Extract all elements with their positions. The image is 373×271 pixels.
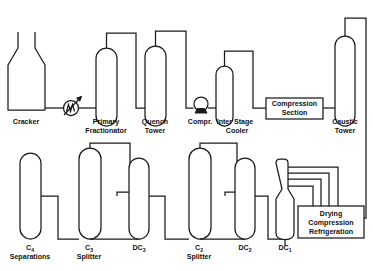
dc3-subscript-text: 3 <box>143 247 146 253</box>
drying-label-line2: Compression <box>308 219 353 227</box>
c4-separations-shape <box>20 153 41 239</box>
dc3-shape <box>129 158 149 239</box>
quench-tower-label-line2: Tower <box>145 127 166 135</box>
c2-splitter-shape <box>189 148 211 239</box>
compression-section-label-line1: Compression <box>272 100 317 108</box>
c4-separations-label-word: Separations <box>10 253 51 261</box>
drying-label-line3: Refrigeration <box>309 228 353 236</box>
primary-fractionator-label-line2: Fractionator <box>85 127 127 135</box>
cracker-label: Cracker <box>13 118 40 126</box>
cracker-shape <box>8 32 45 110</box>
dc3-label: DC3 <box>132 244 145 253</box>
caustic-tower-label-line2: Tower <box>335 127 356 135</box>
compressor-label: Compr. <box>188 118 212 126</box>
dc2-label: DC2 <box>238 244 251 253</box>
compressor-base-icon <box>195 109 207 114</box>
dc1-base-text: DC <box>278 244 288 252</box>
quench-tower-shape <box>145 46 166 126</box>
caustic-tower-label-line1: Caustic <box>332 118 358 126</box>
c4-separations-label-formula: C4 <box>26 244 34 253</box>
pfd-canvas: Cracker Primary Fractionator Quench Towe… <box>0 0 373 271</box>
dc2-subscript-text: 2 <box>249 247 252 253</box>
inter-stage-cooler-label-line1: Inter Stage <box>217 118 254 126</box>
compression-section-label-line2: Section <box>282 109 308 117</box>
dc2-base-text: DC <box>238 244 248 252</box>
inter-stage-cooler-shape <box>216 66 233 126</box>
process-flow-diagram: Cracker Primary Fractionator Quench Towe… <box>0 0 373 271</box>
c3-splitter-label-formula: C3 <box>85 244 93 253</box>
c3-splitter-label-word: Splitter <box>77 253 102 261</box>
quench-tower-label-line1: Quench <box>142 118 168 126</box>
line-c4-separations-to-c3-splitter <box>41 196 79 239</box>
line-dc3-to-c2-splitter <box>149 196 189 239</box>
primary-fractionator-shape <box>96 48 117 126</box>
primary-fractionator-label-line1: Primary <box>93 118 119 126</box>
dc2-shape <box>235 158 255 239</box>
c2-splitter-label-word: Splitter <box>187 253 212 261</box>
dc3-base-text: DC <box>132 244 142 252</box>
dc1-label: DC1 <box>278 244 291 253</box>
dc1-subscript-text: 1 <box>289 247 292 253</box>
caustic-tower-shape <box>335 36 355 126</box>
c2-splitter-label-formula: C2 <box>195 244 203 253</box>
c3-splitter-shape <box>79 148 101 239</box>
inter-stage-cooler-label-line2: Cooler <box>226 127 249 135</box>
drying-label-line1: Drying <box>320 210 342 218</box>
dc1-shape <box>276 159 294 240</box>
